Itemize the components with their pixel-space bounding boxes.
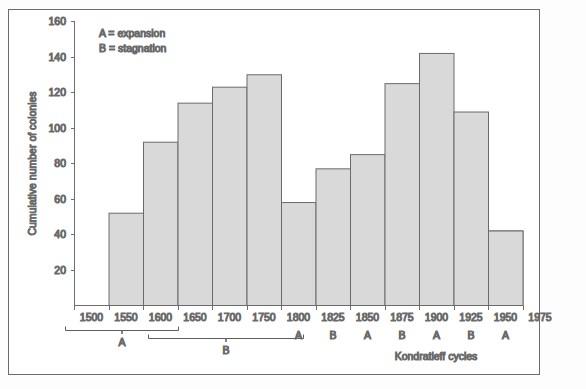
bar-1750[interactable] [282, 203, 317, 306]
x-tick-label-1875: 1875 [390, 311, 414, 323]
bar-1500[interactable] [109, 213, 144, 305]
y-tick-label-120: 120 [48, 86, 66, 98]
phase-label-1900: A [433, 329, 440, 341]
bar-1875[interactable] [420, 53, 455, 305]
bar-1600[interactable] [178, 103, 213, 305]
phase-label-1825: B [329, 329, 336, 341]
bar-1950[interactable] [489, 231, 524, 306]
y-tick-label-160: 160 [48, 15, 66, 27]
y-axis-ticks [71, 22, 75, 271]
x-axis-title: Kondratieff cycles [395, 350, 478, 362]
bars-group [109, 53, 523, 305]
bar-1825[interactable] [351, 155, 386, 306]
phase-label-1925: B [467, 329, 474, 341]
x-tick-label-1950: 1950 [494, 311, 518, 323]
bar-1800[interactable] [316, 169, 351, 306]
bar-1650[interactable] [213, 87, 248, 305]
bracket-label-a: A [118, 336, 125, 348]
phase-label-1875: B [398, 329, 405, 341]
y-tick-label-40: 40 [54, 228, 66, 240]
x-tick-label-1900: 1900 [425, 311, 449, 323]
bar-1700[interactable] [247, 75, 282, 306]
bracket-b-span [149, 335, 304, 343]
bar-1550[interactable] [144, 142, 179, 305]
x-tick-label-1650: 1650 [183, 311, 207, 323]
x-tick-label-1500: 1500 [80, 311, 104, 323]
y-tick-label-20: 20 [54, 264, 66, 276]
x-tick-label-1825: 1825 [321, 311, 345, 323]
x-tick-label-1925: 1925 [459, 311, 483, 323]
x-tick-label-1600: 1600 [149, 311, 173, 323]
bracket-label-b: B [222, 344, 229, 356]
y-tick-label-100: 100 [48, 122, 66, 134]
legend-line-expansion: A = expansion [99, 27, 165, 39]
y-tick-label-140: 140 [48, 51, 66, 63]
legend-line-stagnation: B = stagnation [99, 42, 167, 54]
y-axis-title: Cumulative number of colonies [26, 91, 38, 235]
bar-chart: 160 140 120 100 80 60 40 20 Cumulative n… [0, 0, 586, 389]
phase-label-1950: A [502, 329, 509, 341]
bracket-a-span [66, 327, 179, 335]
bar-1900[interactable] [454, 112, 489, 305]
x-tick-label-1550: 1550 [114, 311, 138, 323]
bar-1850[interactable] [385, 84, 420, 306]
phase-label-1850: A [364, 329, 371, 341]
figure-container: 160 140 120 100 80 60 40 20 Cumulative n… [0, 0, 586, 389]
x-tick-label-1975: 1975 [528, 311, 552, 323]
x-tick-label-1750: 1750 [252, 311, 276, 323]
x-axis-ticks [75, 306, 524, 310]
y-tick-label-80: 80 [54, 157, 66, 169]
x-tick-label-1850: 1850 [356, 311, 380, 323]
phase-label-1800: A [295, 329, 302, 341]
y-tick-label-60: 60 [54, 193, 66, 205]
x-tick-label-1800: 1800 [287, 311, 311, 323]
x-tick-label-1700: 1700 [218, 311, 242, 323]
